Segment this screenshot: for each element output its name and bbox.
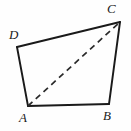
vertex-label-d: D xyxy=(9,28,18,41)
geometry-figure: A B C D xyxy=(0,0,131,131)
vertex-label-c: C xyxy=(107,2,116,15)
vertex-label-b: B xyxy=(103,109,111,122)
vertex-label-a: A xyxy=(19,111,27,124)
